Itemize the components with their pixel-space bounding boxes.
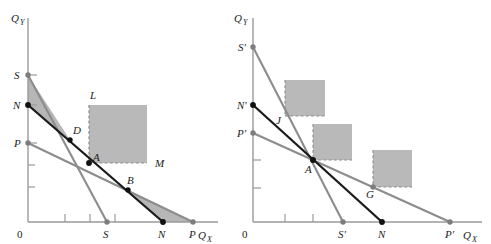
left-label-n-y: N: [12, 99, 21, 111]
right-x-axis-title-subscript: X: [471, 235, 478, 244]
left-point-p-y: [25, 140, 30, 145]
left-panel: Q Y Q X 0 S N P S N P D A B L M: [11, 12, 218, 244]
left-point-a: [86, 160, 92, 166]
right-label-s-prime-y: S': [238, 41, 247, 53]
left-label-d: D: [72, 124, 81, 136]
right-box-upper: [285, 80, 325, 116]
right-y-axis-title-subscript: Y: [243, 18, 249, 27]
left-point-p-x: [190, 219, 195, 224]
left-x-axis-title: Q: [198, 229, 206, 241]
left-label-m: M: [154, 157, 165, 169]
right-label-g: G: [366, 188, 374, 200]
left-label-s-y: S: [14, 69, 20, 81]
right-label-n-prime-y: N': [236, 99, 247, 111]
left-label-a: A: [92, 151, 100, 163]
right-x-axis-title: Q: [463, 229, 471, 241]
left-point-n-y: [25, 102, 31, 108]
left-point-s-x: [104, 219, 109, 224]
economics-budget-line-figure: Q Y Q X 0 S N P S N P D A B L M: [0, 0, 491, 244]
right-point-s-prime-y: [250, 44, 255, 49]
left-point-n-x: [160, 219, 166, 225]
left-y-axis-title-subscript: Y: [20, 18, 26, 27]
right-label-j: J: [276, 114, 282, 126]
right-label-p-prime-x: P': [444, 228, 455, 240]
right-label-n-x: N: [377, 228, 386, 240]
right-label-s-prime-x: S': [338, 228, 347, 240]
right-point-p-prime-x: [447, 219, 452, 224]
left-origin-label: 0: [17, 228, 23, 240]
left-point-s-y: [25, 72, 30, 77]
left-label-n-x: N: [157, 228, 166, 240]
figure-root: Q Y Q X 0 S N P S N P D A B L M: [0, 0, 491, 244]
right-panel: Q Y Q X 0 S' N' P' S' N P' J A G: [234, 12, 482, 244]
left-label-p-y: P: [13, 137, 21, 149]
right-label-p-prime-y: P': [236, 127, 247, 139]
right-point-n-prime-y: [250, 102, 256, 108]
right-point-s-prime-x: [340, 219, 345, 224]
left-label-s-x: S: [103, 228, 109, 240]
right-origin-label: 0: [242, 228, 248, 240]
right-y-axis-title: Q: [234, 12, 242, 24]
left-point-d: [67, 137, 72, 142]
left-label-l: L: [89, 89, 96, 101]
right-point-p-prime-y: [250, 130, 255, 135]
left-label-p-x: P: [188, 228, 196, 240]
left-y-axis-title: Q: [11, 12, 19, 24]
left-label-b: B: [127, 174, 134, 186]
right-point-n-x: [379, 219, 385, 225]
right-budget-line-nn: [253, 105, 382, 222]
left-x-axis-title-subscript: X: [206, 235, 213, 244]
left-point-b: [125, 187, 130, 192]
right-box-middle: [313, 124, 352, 160]
right-box-lower: [373, 150, 412, 187]
right-label-a: A: [304, 163, 312, 175]
